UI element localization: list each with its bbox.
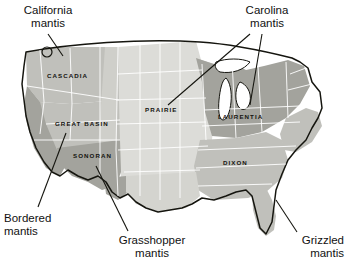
callout-grasshopper-mantis: Grasshopper mantis bbox=[103, 234, 201, 259]
callout-california-mantis: California mantis bbox=[5, 4, 91, 29]
region-fills bbox=[24, 41, 322, 236]
leader-line-grizzled-mantis bbox=[276, 200, 297, 232]
region-label-great-basin: GREAT BASIN bbox=[55, 120, 109, 127]
region-label-laurentia: LAURENTIA bbox=[218, 113, 263, 120]
callout-carolina-mantis: Carolina mantis bbox=[228, 4, 306, 29]
callout-grasshopper-mantis-line2: mantis bbox=[103, 247, 201, 260]
callout-carolina-mantis-line2: mantis bbox=[228, 17, 306, 30]
callout-bordered-mantis: Bordered mantis bbox=[4, 212, 78, 237]
callout-grizzled-mantis-line2: mantis bbox=[272, 247, 344, 260]
callout-california-mantis-line2: mantis bbox=[5, 17, 91, 30]
region-label-dixon: DIXON bbox=[223, 159, 248, 166]
callout-california-mantis-line1: California bbox=[24, 4, 73, 16]
mantis-distribution-map-figure: CASCADIA GREAT BASIN SONORAN PRAIRIE LAU… bbox=[0, 0, 349, 266]
region-label-sonoran: SONORAN bbox=[73, 152, 112, 159]
callout-grizzled-mantis: Grizzled mantis bbox=[272, 234, 344, 259]
region-label-prairie: PRAIRIE bbox=[145, 106, 177, 113]
callout-grizzled-mantis-line1: Grizzled bbox=[302, 234, 344, 246]
region-label-cascadia: CASCADIA bbox=[47, 72, 88, 79]
callout-bordered-mantis-line1: Bordered bbox=[4, 212, 51, 224]
callout-carolina-mantis-line1: Carolina bbox=[246, 4, 289, 16]
callout-bordered-mantis-line2: mantis bbox=[4, 225, 78, 238]
callout-grasshopper-mantis-line1: Grasshopper bbox=[119, 234, 185, 246]
